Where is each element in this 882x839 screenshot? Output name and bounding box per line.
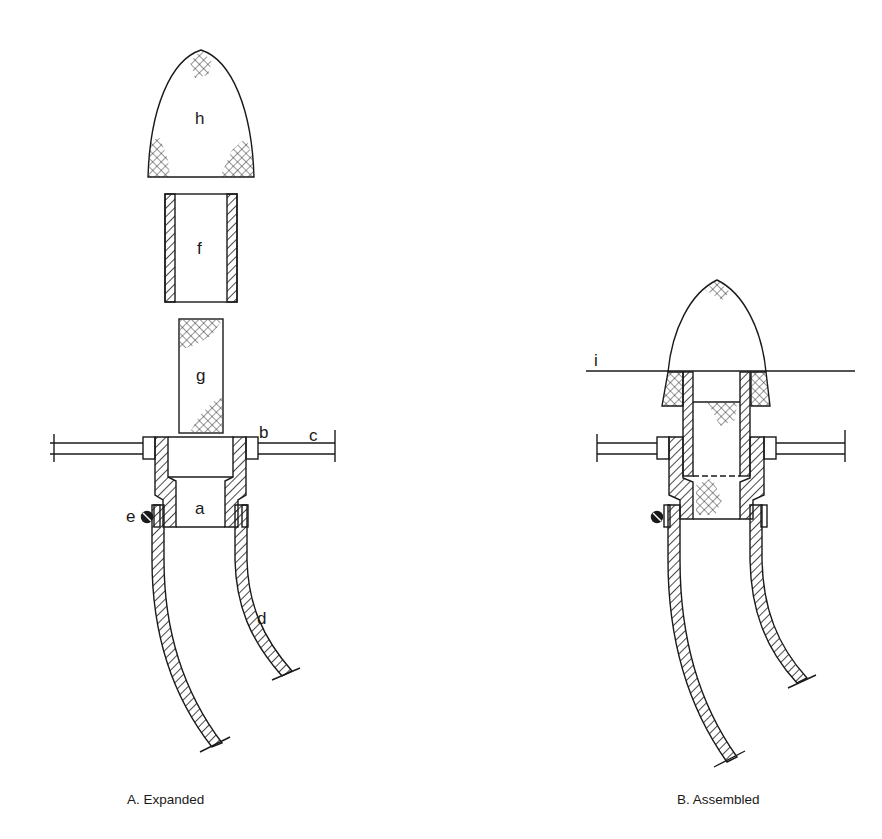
label-g: g [196, 366, 205, 385]
part-c-plate [50, 430, 335, 462]
label-b: b [259, 423, 268, 442]
panel-a-expanded [50, 50, 335, 752]
label-c: c [309, 426, 318, 445]
caption-a-expanded: A. Expanded [127, 792, 204, 807]
panel-b-assembled [586, 280, 855, 767]
label-f: f [197, 239, 202, 258]
part-d-tube [152, 505, 300, 752]
label-d: d [257, 609, 266, 628]
label-e: e [126, 507, 135, 526]
label-h: h [195, 109, 204, 128]
exploded-assembly-diagram: h f g b c a e d [0, 0, 882, 839]
label-i: i [594, 351, 598, 370]
label-a: a [195, 499, 205, 518]
caption-b-assembled: B. Assembled [677, 792, 760, 807]
